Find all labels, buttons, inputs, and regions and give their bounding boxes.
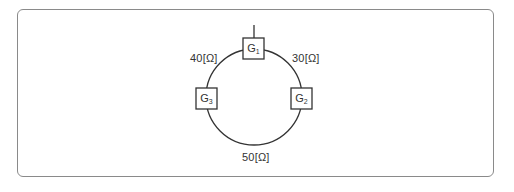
edge-g1-g2-label: 30[Ω] — [292, 52, 320, 64]
edge-g2-g3-label: 50[Ω] — [242, 151, 270, 163]
edge-g1-g3-label: 40[Ω] — [190, 52, 218, 64]
ring-line — [206, 49, 302, 145]
node-g3-label: G3 — [196, 92, 217, 105]
node-g1-label: G1 — [243, 42, 264, 55]
node-g2-label: G2 — [291, 92, 312, 105]
ring-diagram — [0, 0, 514, 192]
